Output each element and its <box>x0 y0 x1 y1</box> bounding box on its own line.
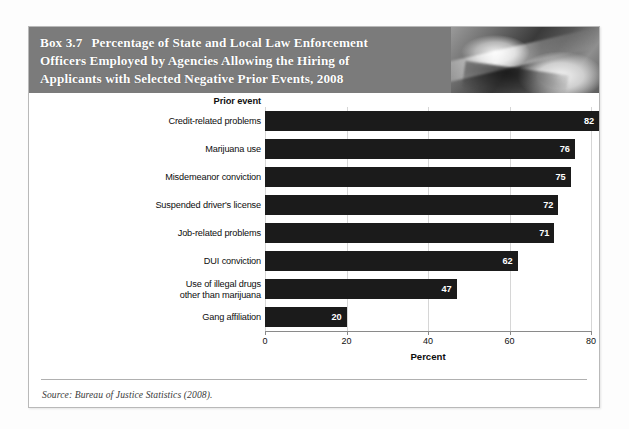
chart-row: Marijuana use76 <box>29 135 599 163</box>
chart-bar-track: 76 <box>265 135 591 163</box>
chart-bar-track: 71 <box>265 219 591 247</box>
x-axis-tickmark <box>265 331 266 335</box>
chart-row-label: Gang affiliation <box>109 312 261 323</box>
x-axis-tick-label: 60 <box>504 336 514 346</box>
chart-row-label-line1: Use of illegal drugs <box>186 279 261 289</box>
chart-bar-value: 76 <box>560 144 570 154</box>
chart-row-label-line1: Marijuana use <box>205 144 261 154</box>
chart-bar: 72 <box>265 195 558 215</box>
chart-bar-track: 62 <box>265 247 591 275</box>
chart-bar-track: 82 <box>265 107 591 135</box>
chart-bar-value: 62 <box>503 256 513 266</box>
chart-row-label: Marijuana use <box>109 144 261 155</box>
chart-bar: 75 <box>265 167 571 187</box>
chart-bar: 47 <box>265 279 457 299</box>
box-title-line2: Officers Employed by Agencies Allowing t… <box>40 53 350 68</box>
chart-row: Misdemeanor conviction75 <box>29 163 599 191</box>
chart-bar: 20 <box>265 307 347 327</box>
chart-bar-value: 75 <box>556 172 566 182</box>
box-header-band: Box 3.7Percentage of State and Local Law… <box>29 27 599 93</box>
x-axis-tickmark <box>428 331 429 335</box>
chart-row-label-line1: Misdemeanor conviction <box>165 172 261 182</box>
chart-row: Credit-related problems82 <box>29 107 599 135</box>
category-column-header: Prior event <box>143 96 261 106</box>
chart-bar-value: 82 <box>584 116 594 126</box>
box-title-line3: Applicants with Selected Negative Prior … <box>40 71 343 86</box>
chart-row-label-line1: Suspended driver's license <box>155 200 261 210</box>
x-axis-label: Percent <box>265 351 591 362</box>
x-axis-tick-label: 0 <box>262 336 267 346</box>
chart-bar: 76 <box>265 139 575 159</box>
source-note: Source: Bureau of Justice Statistics (20… <box>42 389 212 400</box>
chart-bar-value: 71 <box>539 228 549 238</box>
chart-row-label-line2: other than marijuana <box>180 289 261 299</box>
box-body: Prior event Credit-related problems82Mar… <box>29 93 599 407</box>
x-axis-tick-label: 40 <box>423 336 433 346</box>
chart-row: Suspended driver's license72 <box>29 191 599 219</box>
chart-row-label: DUI conviction <box>109 256 261 267</box>
chart-bar: 71 <box>265 223 554 243</box>
chart-row-label: Use of illegal drugsother than marijuana <box>109 279 261 300</box>
x-axis-tickmark <box>591 331 592 335</box>
chart-bar-track: 75 <box>265 163 591 191</box>
chart-row: DUI conviction62 <box>29 247 599 275</box>
box-number: Box 3.7 <box>40 35 82 50</box>
chart-row-label: Suspended driver's license <box>109 200 261 211</box>
chart-row: Use of illegal drugsother than marijuana… <box>29 275 599 303</box>
chart-row-label-line1: DUI conviction <box>204 256 261 266</box>
chart-bar-track: 20 <box>265 303 591 331</box>
chart-bar-track: 47 <box>265 275 591 303</box>
chart-bar: 62 <box>265 251 518 271</box>
chart-row-label-line1: Gang affiliation <box>202 312 261 322</box>
chart-bar-value: 20 <box>331 312 341 322</box>
x-axis-tickmark <box>347 331 348 335</box>
chart-bar-value: 47 <box>441 284 451 294</box>
chart-row-label: Job-related problems <box>109 228 261 239</box>
x-axis-tick-label: 20 <box>341 336 351 346</box>
chart-bar-track: 72 <box>265 191 591 219</box>
chart-bar-value: 72 <box>543 200 553 210</box>
footer-divider <box>41 379 587 380</box>
bar-chart: Prior event Credit-related problems82Mar… <box>29 93 599 365</box>
law-enforcement-photo <box>451 27 599 93</box>
x-axis-ticks: 020406080 <box>265 336 591 350</box>
chart-row-label: Credit-related problems <box>109 116 261 127</box>
chart-row-label: Misdemeanor conviction <box>109 172 261 183</box>
box-title: Box 3.7Percentage of State and Local Law… <box>29 27 451 93</box>
page-background: Box 3.7Percentage of State and Local Law… <box>0 0 629 429</box>
chart-row-label-line1: Job-related problems <box>178 228 261 238</box>
box-title-line1: Percentage of State and Local Law Enforc… <box>91 35 368 50</box>
chart-row: Job-related problems71 <box>29 219 599 247</box>
chart-row: Gang affiliation20 <box>29 303 599 331</box>
chart-row-label-line1: Credit-related problems <box>168 116 261 126</box>
chart-bar: 82 <box>265 111 599 131</box>
figure-box: Box 3.7Percentage of State and Local Law… <box>28 26 600 408</box>
x-axis-tick-label: 80 <box>586 336 596 346</box>
x-axis-tickmark <box>510 331 511 335</box>
